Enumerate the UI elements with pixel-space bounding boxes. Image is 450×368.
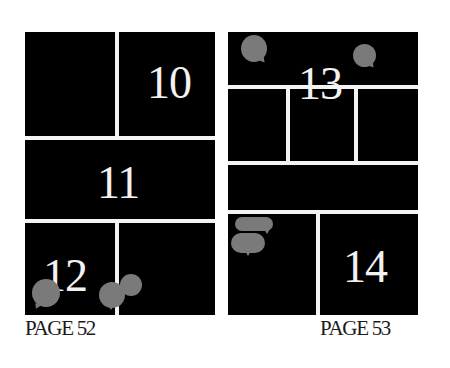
panel-14: 14 (320, 214, 418, 315)
panel-wide-strip (228, 165, 418, 210)
panel-number-13: 13 (298, 61, 342, 107)
panel-11: 11 (25, 140, 215, 219)
panel-10: 10 (119, 32, 215, 136)
page-53: 14 13 (228, 32, 418, 315)
speech-bubble-tail (108, 305, 114, 310)
panel-row2-right (358, 89, 418, 161)
panel-number: 10 (147, 60, 191, 106)
speech-bubble-tail (264, 229, 270, 234)
page-label-53: PAGE 53 (320, 318, 390, 339)
panel-row2-left (228, 89, 286, 161)
speech-bubble (120, 274, 142, 296)
page-52: 10 11 12 (25, 32, 215, 315)
panel-number: 11 (97, 160, 139, 206)
speech-bubble-tail (245, 251, 251, 256)
panel-top-left (25, 32, 115, 136)
page-label-52: PAGE 52 (25, 318, 95, 339)
speech-bubble (231, 233, 265, 253)
panel-bottom-right (119, 223, 215, 315)
panel-number: 14 (343, 244, 387, 290)
